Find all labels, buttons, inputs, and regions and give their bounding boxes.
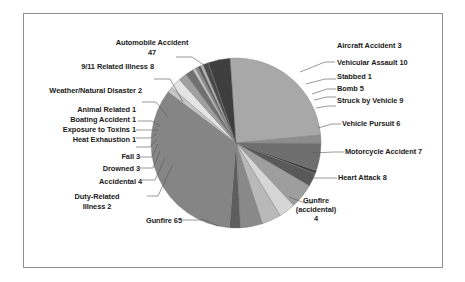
label-heat-exhaustion: Heat Exhaustion 1 xyxy=(18,135,136,144)
label-vehicle-pursuit: Vehicle Pursuit 6 xyxy=(342,119,452,128)
label-stabbed: Stabbed 1 xyxy=(337,72,447,81)
label-nine-eleven-related-illness: 9/11 Related Illness 8 xyxy=(34,62,154,71)
label-duty-related-illness-line2: Illness 2 xyxy=(47,202,147,211)
pie-slice-automobile-accident[interactable] xyxy=(230,58,321,143)
leader-aircraft-accident xyxy=(300,62,335,72)
label-weather-natural-disaster: Weather/Natural Disaster 2 xyxy=(12,86,142,95)
leader-vehicular-assault xyxy=(306,79,336,84)
label-aircraft-accident: Aircraft Accident 3 xyxy=(337,41,447,50)
leader-stabbed xyxy=(312,89,336,94)
leader-bomb xyxy=(314,97,336,100)
label-duty-related-illness-line1: Duty-Related xyxy=(47,192,147,201)
label-boating-accident: Boating Accident 1 xyxy=(22,115,136,124)
label-motorcycle-accident: Motorcycle Accident 7 xyxy=(345,147,460,156)
label-accidental: Accidental 4 xyxy=(32,177,142,186)
chart-root: Aircraft Accident 3 Vehicular Assault 10… xyxy=(0,0,465,282)
label-fall: Fall 3 xyxy=(50,152,140,161)
label-gunfire: Gunfire 65 xyxy=(92,216,182,225)
pie-chart: Aircraft Accident 3 Vehicular Assault 10… xyxy=(0,0,465,282)
leader-vehicle-pursuit xyxy=(318,124,341,128)
label-struck-by-vehicle: Struck by Vehicle 9 xyxy=(337,96,447,105)
label-animal-related: Animal Related 1 xyxy=(28,105,136,114)
label-gunfire-accidental-line1: Gunfire xyxy=(288,196,344,205)
label-gunfire-accidental-line2: (accidental) xyxy=(288,205,344,214)
label-exposure-to-toxins: Exposure to Toxins 1 xyxy=(16,125,136,134)
label-bomb: Bomb 5 xyxy=(337,84,447,93)
label-automobile-accident: Automobile Accident xyxy=(96,38,208,47)
label-automobile-accident-value: 47 xyxy=(96,48,208,57)
label-vehicular-assault: Vehicular Assault 10 xyxy=(337,58,447,67)
label-drowned: Drowned 3 xyxy=(40,164,140,173)
label-heart-attack: Heart Attack 8 xyxy=(338,173,448,182)
label-gunfire-accidental-line3: 4 xyxy=(288,214,344,223)
leader-struck-by-vehicle xyxy=(316,106,336,108)
